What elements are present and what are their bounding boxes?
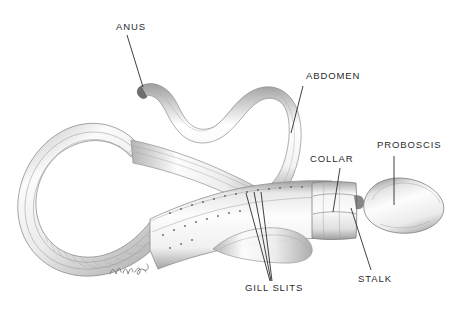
leader-anus xyxy=(127,35,143,87)
label-gill-slits: GILL SLITS xyxy=(245,283,303,293)
label-collar: COLLAR xyxy=(310,154,353,164)
label-stalk: STALK xyxy=(358,274,392,284)
anatomy-figure: ANUS ABDOMEN COLLAR PROBOSCIS GILL SLITS… xyxy=(0,0,467,311)
worm-body xyxy=(18,84,444,277)
label-anus: ANUS xyxy=(116,22,146,32)
label-abdomen: ABDOMEN xyxy=(306,71,360,81)
collar-segment xyxy=(312,182,364,240)
acorn-worm-illustration xyxy=(0,0,467,311)
label-proboscis: PROBOSCIS xyxy=(377,140,442,150)
proboscis-bulb xyxy=(364,178,444,233)
